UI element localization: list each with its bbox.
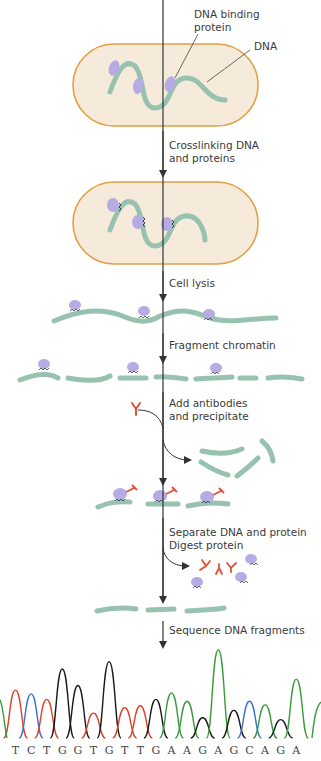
chip-seq-diagram xyxy=(0,0,321,761)
peak-G xyxy=(144,699,168,738)
base-call: G xyxy=(149,744,163,757)
peak-A xyxy=(284,679,308,738)
base-call: G xyxy=(55,744,69,757)
protein-icon xyxy=(200,491,214,503)
protein-icon xyxy=(138,306,150,316)
peak-C xyxy=(238,701,262,738)
step-label-antibodies: Add antibodies and precipitate xyxy=(169,397,249,423)
base-call: A xyxy=(258,744,272,757)
protein-icon xyxy=(203,309,215,319)
base-call: T xyxy=(118,744,132,757)
protein-icon xyxy=(245,554,257,564)
base-call: A xyxy=(180,744,194,757)
protein-icon xyxy=(113,488,127,500)
base-call: T xyxy=(87,744,101,757)
protein-icon xyxy=(127,362,139,372)
peak-C xyxy=(19,694,43,738)
step-label-fragment: Fragment chromatin xyxy=(169,339,276,352)
step-label-crosslinking: Crosslinking DNA and proteins xyxy=(169,139,259,165)
label-dna-binding-protein: DNA binding protein xyxy=(194,8,260,34)
protein-icon xyxy=(191,577,203,587)
peak-A xyxy=(206,650,230,738)
peak-A xyxy=(160,693,184,738)
base-call: A xyxy=(165,744,179,757)
base-call: G xyxy=(196,744,210,757)
base-call: C xyxy=(24,744,38,757)
peak-G xyxy=(50,669,74,738)
base-call: A xyxy=(211,744,225,757)
lysed-chromatin xyxy=(54,300,276,321)
protein-icon xyxy=(69,300,81,310)
protein-icon xyxy=(107,198,119,212)
protein-icon xyxy=(132,215,144,229)
base-call: G xyxy=(274,744,288,757)
chromatin-fragments xyxy=(20,374,302,380)
base-call: T xyxy=(9,744,23,757)
base-call: A xyxy=(289,744,303,757)
protein-icon xyxy=(38,359,50,369)
base-call: T xyxy=(133,744,147,757)
base-call: G xyxy=(102,744,116,757)
peak-T xyxy=(4,690,28,738)
protein-icon xyxy=(210,363,222,373)
sequencing-chromatogram xyxy=(0,650,321,738)
base-call: C xyxy=(243,744,257,757)
purified-dna xyxy=(97,608,224,611)
unbound-fragments xyxy=(201,441,273,476)
cell-1 xyxy=(73,34,258,126)
protein-icon xyxy=(153,490,167,502)
digested-proteins xyxy=(191,554,258,588)
protein-icon xyxy=(235,572,247,582)
step-label-cell-lysis: Cell lysis xyxy=(169,277,215,290)
antibody-icon xyxy=(132,403,140,415)
label-dna: DNA xyxy=(254,40,277,53)
base-call: G xyxy=(71,744,85,757)
base-call: G xyxy=(227,744,241,757)
cell-2 xyxy=(73,182,258,264)
base-call: T xyxy=(40,744,54,757)
step-label-separate: Separate DNA and protein Digest protein xyxy=(169,526,307,552)
step-label-sequence: Sequence DNA fragments xyxy=(169,624,305,637)
